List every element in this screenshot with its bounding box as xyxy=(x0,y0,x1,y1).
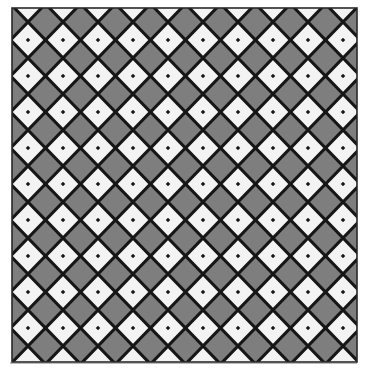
tile-pattern xyxy=(12,8,357,362)
checkerboard-illustration xyxy=(0,0,365,373)
